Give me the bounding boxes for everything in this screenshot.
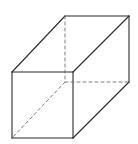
- edge-front_bottom_right-back_bottom_right: [73, 82, 129, 138]
- edge-front_top_right-back_top_right: [73, 16, 129, 72]
- hidden-edge-back_bottom_left-front_bottom_left: [12, 82, 65, 138]
- visible-edges: [12, 16, 129, 138]
- cuboid-figure: [0, 0, 138, 144]
- cuboid-diagram: [0, 0, 138, 144]
- edge-front_top_left-back_top_left: [12, 16, 65, 72]
